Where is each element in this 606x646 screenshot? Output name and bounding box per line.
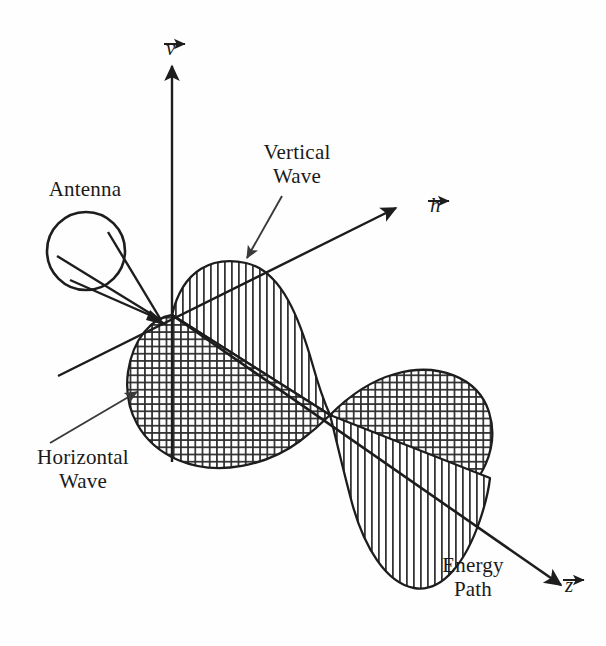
axis-label-h: h: [430, 193, 441, 218]
diagram-canvas: [0, 0, 606, 646]
antenna-symbol: [47, 212, 168, 326]
axis-label-z: z: [565, 573, 573, 598]
label-horizontal-wave: Horizontal Wave: [18, 446, 148, 494]
label-antenna: Antenna: [31, 178, 139, 202]
leader-vertical-wave: [247, 196, 282, 258]
label-energy-path: Energy Path: [425, 554, 521, 602]
leader-horizontal-wave: [50, 392, 137, 443]
label-vertical-wave: Vertical Wave: [243, 141, 351, 189]
wave-propagation-figure: Vertical Wave Horizontal Wave Energy Pat…: [0, 0, 606, 646]
axis-label-v: v: [166, 36, 175, 61]
